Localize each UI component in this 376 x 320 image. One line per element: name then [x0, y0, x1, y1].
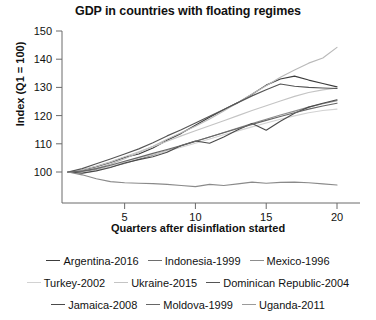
legend-row: Argentina-2016Indonesia-1999Mexico-1996	[46, 250, 329, 271]
legend-line-icon	[46, 260, 60, 261]
legend-label: Moldova-1999	[163, 299, 233, 311]
series-line	[68, 109, 337, 174]
legend-line-icon	[250, 260, 264, 261]
chart-container: GDP in countries with floating regimes I…	[0, 0, 376, 320]
legend-line-icon	[146, 304, 160, 305]
series-line	[68, 76, 337, 172]
legend-item[interactable]: Moldova-1999	[146, 299, 233, 311]
legend-line-icon	[27, 282, 41, 283]
legend-label: Mexico-1996	[267, 255, 330, 267]
legend-label: Uganda-2011	[259, 299, 325, 311]
y-tick-label: 110	[34, 138, 52, 150]
legend-line-icon	[206, 282, 220, 283]
series-line	[68, 47, 337, 172]
legend-row: Jamaica-2008Moldova-1999Uganda-2011	[51, 294, 325, 315]
chart-legend: Argentina-2016Indonesia-1999Mexico-1996T…	[0, 246, 376, 320]
legend-item[interactable]: Argentina-2016	[46, 255, 138, 267]
y-tick-label: 100	[34, 166, 52, 178]
legend-item[interactable]: Dominican Republic-2004	[206, 277, 349, 289]
legend-label: Ukraine-2015	[131, 277, 197, 289]
y-tick-label: 140	[34, 53, 52, 65]
legend-item[interactable]: Jamaica-2008	[51, 299, 137, 311]
y-axis-ticks: 100110120130140150	[34, 25, 62, 178]
series-lines	[68, 47, 337, 186]
legend-item[interactable]: Ukraine-2015	[114, 277, 197, 289]
legend-label: Indonesia-1999	[165, 255, 241, 267]
legend-line-icon	[51, 304, 65, 305]
legend-item[interactable]: Mexico-1996	[250, 255, 330, 267]
x-axis-label: Quarters after disinflation started	[38, 222, 358, 234]
legend-line-icon	[242, 304, 256, 305]
legend-line-icon	[148, 260, 162, 261]
legend-item[interactable]: Uganda-2011	[242, 299, 325, 311]
legend-label: Turkey-2002	[44, 277, 105, 289]
legend-label: Argentina-2016	[63, 255, 138, 267]
legend-item[interactable]: Turkey-2002	[27, 277, 105, 289]
y-tick-label: 120	[34, 110, 52, 122]
legend-row: Turkey-2002Ukraine-2015Dominican Republi…	[27, 272, 349, 293]
plot-area: 100110120130140150 5101520	[0, 0, 376, 246]
y-tick-label: 130	[34, 81, 52, 93]
series-line	[68, 103, 337, 172]
legend-label: Jamaica-2008	[68, 299, 137, 311]
legend-item[interactable]: Indonesia-1999	[148, 255, 241, 267]
x-axis-ticks: 5101520	[122, 203, 344, 223]
legend-line-icon	[114, 282, 128, 283]
series-line	[68, 101, 337, 172]
legend-label: Dominican Republic-2004	[223, 277, 349, 289]
series-line	[68, 172, 337, 187]
y-tick-label: 150	[34, 25, 52, 37]
